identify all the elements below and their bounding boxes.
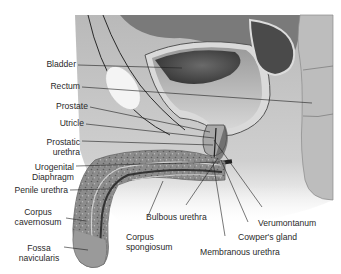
label-penile-urethra: Penile urethra <box>0 185 68 195</box>
label-prostatic-urethra: Prostatic urethra <box>10 137 80 157</box>
label-membranous-urethra: Membranous urethra <box>200 247 280 257</box>
label-corpus-spongiosum: Corpus spongiosum <box>126 232 172 252</box>
label-bulbous-urethra: Bulbous urethra <box>146 212 207 222</box>
label-prostate: Prostate <box>20 101 88 111</box>
label-verumontanum: Verumontanum <box>258 218 316 228</box>
label-bladder: Bladder <box>20 59 76 69</box>
label-rectum: Rectum <box>20 81 80 91</box>
label-utricle: Utricle <box>20 118 84 128</box>
label-fossa-navicularis: Fossa navicularis <box>14 243 64 263</box>
label-urogenital-diaphragm: Urogenital Diaphragm <box>10 162 74 182</box>
label-corpus-cavernosum: Corpus cavernosum <box>10 207 66 227</box>
label-cowpers-gland: Cowper's gland <box>238 232 297 242</box>
